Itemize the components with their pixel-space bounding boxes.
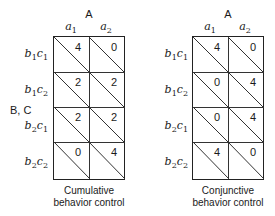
matrix-cell: 0 <box>193 72 229 108</box>
panel-caption: Cumulative behavior control <box>39 185 139 209</box>
matrix-cell: 4 <box>89 142 125 179</box>
matrix-cell: 4 <box>193 37 229 73</box>
cell-value: 0 <box>75 146 81 158</box>
panel-cumulative: A a1 a2 b1c1 b1c2 b2c1 b2c2 4 0 2 2 2 2 … <box>0 0 140 216</box>
cell-value: 0 <box>214 76 220 88</box>
matrix-cell: 0 <box>228 142 264 179</box>
matrix-cell: 4 <box>193 142 229 179</box>
row-label-b1c2: b1c2 <box>8 83 48 98</box>
matrix-cell: 2 <box>54 107 90 143</box>
cell-value: 4 <box>111 146 117 158</box>
cell-value: 2 <box>111 111 117 123</box>
row-label-b1c2: b1c2 <box>148 83 188 98</box>
panel-conjunctive: A a1 a2 b1c1 b1c2 b2c1 b2c2 4 0 0 4 0 4 … <box>139 0 275 216</box>
cell-value: 2 <box>111 76 117 88</box>
row-label-b2c2: b2c2 <box>148 155 188 170</box>
matrix-grid: 4 0 2 2 2 2 0 4 <box>53 36 125 180</box>
row-label-b2c1: b2c1 <box>8 119 48 134</box>
matrix-cell: 0 <box>193 107 229 143</box>
row-label-b1c1: b1c1 <box>148 47 188 62</box>
cell-value: 0 <box>111 41 117 53</box>
cell-value: 2 <box>75 111 81 123</box>
column-label-a2: a2 <box>230 20 260 35</box>
column-label-a1: a1 <box>195 20 225 35</box>
row-label-b2c1: b2c1 <box>148 119 188 134</box>
matrix-cell: 0 <box>54 142 90 179</box>
row-label-b1c1: b1c1 <box>8 47 48 62</box>
matrix-cell: 0 <box>89 37 125 73</box>
column-label-a1: a1 <box>56 20 86 35</box>
matrix-cell: 2 <box>89 72 125 108</box>
cell-value: 0 <box>250 41 256 53</box>
matrix-grid: 4 0 0 4 0 4 4 0 <box>192 36 264 180</box>
matrix-cell: 2 <box>89 107 125 143</box>
cell-value: 2 <box>75 76 81 88</box>
row-label-b2c2: b2c2 <box>8 155 48 170</box>
matrix-cell: 0 <box>228 37 264 73</box>
column-label-a2: a2 <box>91 20 121 35</box>
cell-value: 4 <box>250 76 256 88</box>
column-factor-label: A <box>79 8 99 20</box>
cell-value: 4 <box>214 41 220 53</box>
matrix-cell: 2 <box>54 72 90 108</box>
panel-caption: Conjunctive behavior control <box>178 185 275 209</box>
cell-value: 0 <box>214 111 220 123</box>
matrix-cell: 4 <box>228 107 264 143</box>
matrix-cell: 4 <box>54 37 90 73</box>
cell-value: 0 <box>250 146 256 158</box>
cell-value: 4 <box>250 111 256 123</box>
cell-value: 4 <box>214 146 220 158</box>
cell-value: 4 <box>75 41 81 53</box>
column-factor-label: A <box>218 8 238 20</box>
matrix-cell: 4 <box>228 72 264 108</box>
